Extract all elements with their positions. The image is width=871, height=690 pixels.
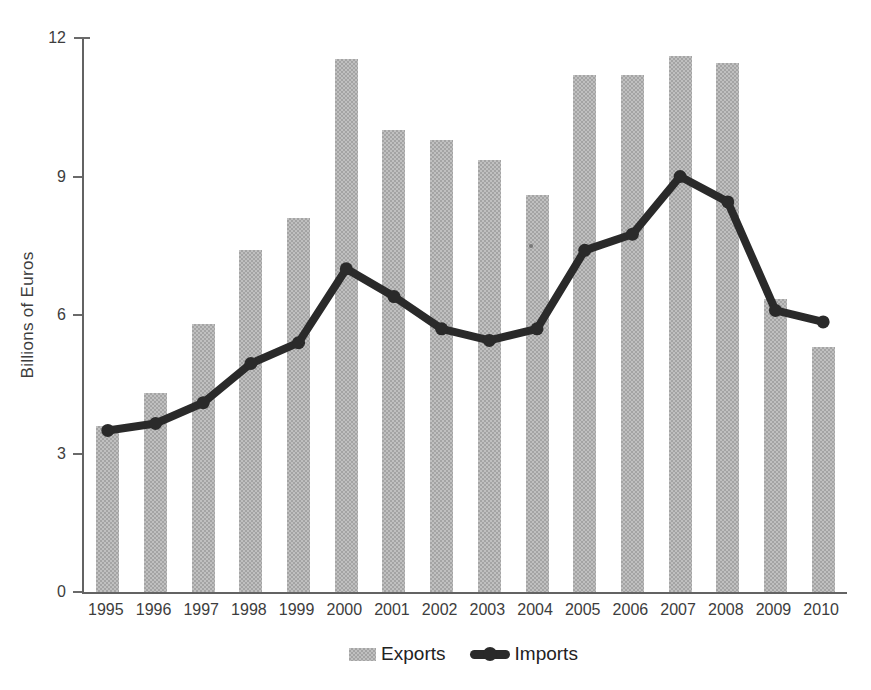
x-label-2008: 2008 [702, 601, 750, 619]
imports-line-svg [84, 38, 847, 592]
imports-point-1996 [149, 417, 162, 430]
x-label-2004: 2004 [511, 601, 559, 619]
legend-item-imports: Imports [470, 643, 578, 665]
imports-point-2009 [769, 304, 782, 317]
imports-point-2006 [626, 228, 639, 241]
exports-bar-swatch-icon [349, 648, 376, 661]
x-label-1999: 1999 [273, 601, 321, 619]
imports-point-2002 [435, 322, 448, 335]
imports-point-1995 [101, 424, 114, 437]
imports-point-1997 [197, 396, 210, 409]
x-label-2010: 2010 [797, 601, 845, 619]
x-label-1997: 1997 [177, 601, 225, 619]
x-label-2000: 2000 [320, 601, 368, 619]
imports-point-1998 [244, 357, 257, 370]
x-label-1995: 1995 [82, 601, 130, 619]
imports-marker-dot-icon [483, 647, 497, 661]
chart-figure: Billions of Euros 1995199619971998199920… [0, 0, 871, 690]
plot-area [82, 38, 847, 594]
y-tick-label-6: 6 [30, 307, 66, 323]
imports-point-2004 [531, 322, 544, 335]
legend-imports-label: Imports [515, 643, 578, 665]
imports-line [108, 177, 823, 431]
y-tick-label-3: 3 [30, 446, 66, 462]
imports-point-2010 [817, 315, 830, 328]
imports-point-2001 [387, 290, 400, 303]
x-label-2003: 2003 [464, 601, 512, 619]
imports-point-2008 [721, 195, 734, 208]
y-tick-label-12: 12 [30, 30, 66, 46]
print-speck-artifact [529, 244, 533, 248]
x-label-2002: 2002 [416, 601, 464, 619]
x-axis-labels: 1995199619971998199920002001200220032004… [82, 601, 845, 621]
legend-exports-label: Exports [381, 643, 445, 665]
legend-item-exports: Exports [349, 643, 445, 665]
imports-point-2007 [674, 170, 687, 183]
x-label-2006: 2006 [607, 601, 655, 619]
y-tick-9 [73, 176, 82, 178]
y-tick-0 [73, 591, 82, 593]
imports-point-2000 [340, 262, 353, 275]
x-label-1998: 1998 [225, 601, 273, 619]
x-label-2001: 2001 [368, 601, 416, 619]
x-label-2009: 2009 [750, 601, 798, 619]
y-tick-12 [74, 37, 90, 39]
y-tick-6 [73, 314, 82, 316]
imports-point-1999 [292, 336, 305, 349]
y-tick-3 [73, 453, 82, 455]
imports-point-2005 [578, 244, 591, 257]
imports-line-swatch-icon [470, 650, 510, 659]
y-tick-label-0: 0 [30, 584, 66, 600]
x-label-2007: 2007 [654, 601, 702, 619]
y-tick-label-9: 9 [30, 169, 66, 185]
x-label-1996: 1996 [130, 601, 178, 619]
x-label-2005: 2005 [559, 601, 607, 619]
imports-point-2003 [483, 334, 496, 347]
legend: Exports Imports [82, 642, 845, 666]
